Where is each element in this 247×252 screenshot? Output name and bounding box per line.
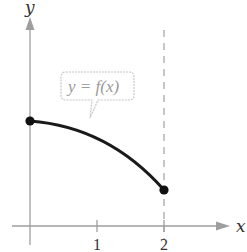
endpoint-left (25, 116, 34, 125)
x-tick-label-1: 1 (93, 236, 101, 252)
x-tick-label-2: 2 (160, 236, 168, 252)
function-curve (30, 121, 164, 190)
callout-label: y = f(x) (66, 77, 119, 96)
y-axis-label: y (24, 0, 35, 17)
x-axis-arrow-icon (216, 222, 230, 231)
function-graph: y x 1 2 y = f(x) (0, 0, 247, 252)
x-axis-label: x (236, 216, 246, 236)
y-axis-arrow-icon (26, 17, 35, 30)
endpoint-right (159, 185, 168, 194)
